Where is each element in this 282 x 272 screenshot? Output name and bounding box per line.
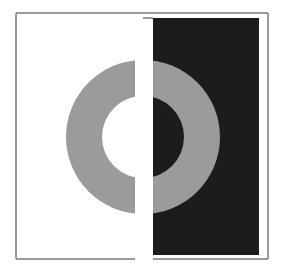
ring-illusion-figure (0, 0, 282, 272)
